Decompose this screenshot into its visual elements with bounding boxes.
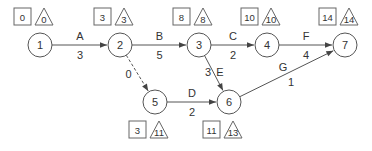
edge-3-4: C2 bbox=[211, 30, 254, 61]
activity-label: A bbox=[76, 30, 84, 42]
duration-label: 1 bbox=[288, 76, 294, 88]
activity-label: F bbox=[303, 30, 310, 42]
edge-6-7: G1 bbox=[240, 51, 334, 97]
node-5: 5311 bbox=[129, 90, 168, 138]
network-diagram: A3B5C2F40D23EG1 100233388410107141453116… bbox=[0, 0, 372, 151]
duration-label: 2 bbox=[189, 106, 195, 118]
duration-label: 3 bbox=[77, 49, 83, 61]
early-time-value: 11 bbox=[207, 125, 217, 136]
edge-2-3: B5 bbox=[132, 30, 186, 61]
node-4: 41010 bbox=[241, 8, 280, 57]
edge-3-6: 3E bbox=[205, 56, 224, 91]
node-3: 388 bbox=[173, 8, 212, 57]
early-time-value: 3 bbox=[100, 12, 105, 23]
edge-4-7: F4 bbox=[279, 30, 332, 61]
late-time-value: 3 bbox=[121, 14, 126, 25]
edge-5-6: D2 bbox=[167, 87, 216, 118]
activity-label: D bbox=[188, 87, 196, 99]
node-number: 5 bbox=[152, 96, 158, 108]
late-time-value: 8 bbox=[200, 14, 205, 25]
duration-label: 4 bbox=[303, 49, 309, 61]
duration-label: 0 bbox=[125, 68, 131, 80]
edge-1-2: A3 bbox=[52, 30, 107, 61]
activity-label: G bbox=[279, 61, 288, 73]
activity-label: C bbox=[229, 30, 237, 42]
early-time-value: 3 bbox=[135, 125, 140, 136]
early-time-value: 14 bbox=[322, 12, 333, 23]
node-number: 7 bbox=[342, 39, 348, 51]
node-number: 4 bbox=[264, 39, 270, 51]
duration-label: 2 bbox=[230, 49, 236, 61]
node-number: 6 bbox=[226, 96, 232, 108]
early-time-value: 10 bbox=[244, 12, 255, 23]
early-time-value: 8 bbox=[179, 12, 184, 23]
late-time-value: 13 bbox=[228, 127, 239, 138]
late-time-value: 0 bbox=[41, 14, 46, 25]
activity-label: B bbox=[156, 30, 163, 42]
node-number: 1 bbox=[37, 39, 43, 51]
node-7: 71414 bbox=[319, 8, 358, 57]
node-2: 233 bbox=[94, 8, 133, 57]
early-time-value: 0 bbox=[20, 12, 25, 23]
node-6: 61113 bbox=[203, 90, 242, 138]
late-time-value: 14 bbox=[344, 14, 355, 25]
late-time-value: 11 bbox=[154, 127, 164, 138]
node-number: 3 bbox=[196, 39, 202, 51]
node-1: 100 bbox=[14, 8, 53, 57]
node-number: 2 bbox=[117, 39, 123, 51]
edge-2-5: 0 bbox=[125, 55, 148, 91]
activity-label: E bbox=[216, 66, 223, 78]
late-time-value: 10 bbox=[266, 14, 277, 25]
duration-label: 3 bbox=[205, 66, 211, 78]
edge-arrow bbox=[240, 51, 334, 97]
duration-label: 5 bbox=[156, 49, 162, 61]
